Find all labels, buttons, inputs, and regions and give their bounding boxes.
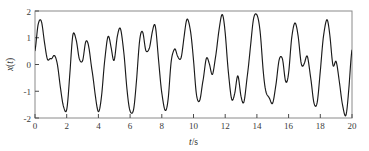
chart-figure: 2 1 0 -1 -2 0 2 4 6 8 10 12 14 16 18 20 … [0, 0, 369, 151]
x-axis-ticks [35, 114, 352, 118]
y-axis-ticks [35, 11, 39, 118]
x-tick-label-4: 4 [96, 121, 101, 131]
x-tick-label-12: 12 [221, 121, 230, 131]
x-tick-label-10: 10 [189, 121, 199, 131]
x-tick-label-8: 8 [160, 121, 165, 131]
x-tick-label-14: 14 [252, 121, 262, 131]
x-tick-label-18: 18 [316, 121, 326, 131]
signal-trace [35, 14, 352, 116]
x-axis-label: t/s [189, 137, 198, 147]
x-axis-label-unit: /s [192, 137, 199, 147]
x-tick-label-0: 0 [33, 121, 38, 131]
y-tick-label-2: 2 [27, 7, 32, 17]
y-tick-label-1: 1 [27, 33, 32, 43]
y-tick-label-neg1: -1 [24, 87, 32, 97]
x-tick-label-16: 16 [284, 121, 294, 131]
y-axis-label-paren-close: ) [5, 58, 16, 61]
y-tick-label-neg2: -2 [24, 114, 32, 124]
y-axis-label: x(t) [5, 58, 16, 72]
x-tick-label-20: 20 [348, 121, 358, 131]
x-tick-label-6: 6 [128, 121, 133, 131]
x-tick-label-2: 2 [64, 121, 69, 131]
signal-plot: 2 1 0 -1 -2 0 2 4 6 8 10 12 14 16 18 20 … [0, 0, 369, 151]
y-tick-label-0: 0 [27, 60, 32, 70]
